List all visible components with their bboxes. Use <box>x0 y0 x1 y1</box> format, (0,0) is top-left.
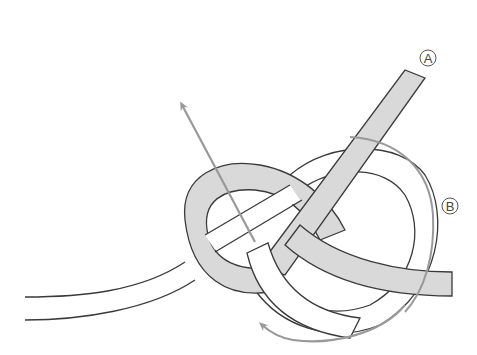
svg-text:B: B <box>446 199 455 214</box>
label-b: B <box>442 198 458 214</box>
label-a: A <box>420 50 436 66</box>
shaded-exit-strand <box>285 225 452 296</box>
standing-part <box>25 262 195 320</box>
knot-diagram: A B <box>0 0 477 355</box>
svg-text:A: A <box>424 51 433 66</box>
